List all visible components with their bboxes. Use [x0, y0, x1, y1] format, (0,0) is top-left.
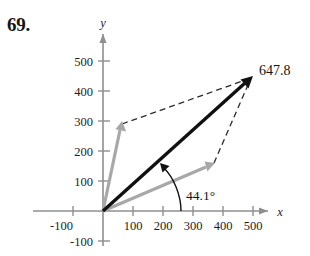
y-axis-tick-labels: 500 400 300 200 100 -100 — [70, 55, 93, 249]
resultant-vector-shaft — [103, 83, 245, 211]
y-tick-label-300: 300 — [74, 115, 93, 129]
x-axis-arrowhead — [259, 207, 268, 214]
parallelogram-edge-upper — [122, 78, 251, 124]
axis-group — [33, 34, 268, 246]
x-tick-label-500: 500 — [244, 219, 263, 233]
x-tick-label-100: 100 — [124, 219, 143, 233]
x-tick-label-400: 400 — [214, 219, 233, 233]
vector-diagram-figure: 69. 500 — [0, 0, 310, 256]
component-vector-2-arrowhead — [205, 161, 215, 171]
y-tick-label-500: 500 — [74, 55, 93, 69]
y-tick-label-200: 200 — [74, 145, 93, 159]
x-axis-label: x — [276, 205, 283, 219]
coordinate-plot: 500 400 300 200 100 -100 -100 100 200 30… — [0, 0, 310, 256]
x-tick-label-300: 300 — [184, 219, 203, 233]
y-tick-label-400: 400 — [74, 85, 93, 99]
component-vector-2 — [103, 161, 215, 211]
angle-measure-label: 44.1° — [186, 188, 215, 203]
x-tick-label--100: -100 — [50, 219, 73, 233]
y-axis-arrowhead — [99, 34, 106, 43]
component-vector-1 — [103, 121, 126, 211]
y-axis-label: y — [98, 16, 106, 30]
angle-arc — [164, 168, 181, 211]
angle-arc-arrowhead — [160, 163, 170, 173]
y-axis-ticks — [98, 61, 110, 241]
y-tick-label--100: -100 — [70, 235, 93, 249]
parallelogram-edge-right — [214, 78, 251, 163]
x-tick-label-200: 200 — [154, 219, 173, 233]
resultant-magnitude-label: 647.8 — [259, 63, 291, 78]
parallelogram-dashed-edges — [122, 78, 251, 163]
y-tick-label-100: 100 — [74, 175, 93, 189]
x-axis-tick-labels: -100 100 200 300 400 500 — [50, 219, 262, 233]
